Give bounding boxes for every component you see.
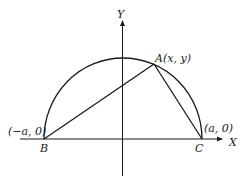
segment-BA (44, 64, 154, 139)
point-A-name: A (154, 52, 163, 65)
y-axis-label: Y (117, 8, 126, 21)
diagram-canvas: Y X A (x, y) (−a, 0) B (a, 0) C (0, 0, 248, 182)
point-C-name: C (195, 142, 204, 155)
point-B-name: B (39, 142, 48, 155)
x-axis-label: X (228, 136, 238, 149)
segment-AC (154, 64, 202, 139)
point-C-coords: (a, 0) (204, 122, 233, 135)
point-B-coords: (−a, 0) (8, 125, 46, 138)
point-A-coords: (x, y) (163, 52, 191, 65)
